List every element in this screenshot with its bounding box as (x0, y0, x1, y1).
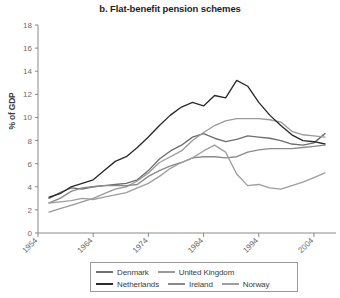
y-tick-label: 10 (23, 113, 32, 122)
y-tick-label: 18 (23, 21, 32, 30)
legend-label: Ireland (189, 280, 213, 289)
y-tick-label: 6 (28, 160, 33, 169)
x-tick-label: 1994 (241, 236, 260, 255)
series-line-united-kingdom (49, 119, 325, 213)
legend-row: NetherlandsIrelandNorway (96, 278, 292, 290)
plot-area: 024681012141618 195419641974198419942004 (0, 0, 340, 258)
legend-label: Norway (243, 280, 270, 289)
series-line-netherlands (49, 80, 325, 197)
x-tick-label: 1964 (76, 236, 95, 255)
y-tick-label: 12 (23, 90, 32, 99)
legend-swatch-icon (96, 283, 113, 285)
legend-item-denmark[interactable]: Denmark (96, 268, 149, 277)
legend-swatch-icon (168, 283, 185, 285)
legend-item-netherlands[interactable]: Netherlands (96, 280, 159, 289)
legend-item-united-kingdom[interactable]: United Kingdom (158, 268, 235, 277)
legend-swatch-icon (96, 271, 113, 273)
data-series-group (49, 80, 325, 212)
legend-swatch-icon (158, 271, 175, 273)
legend-label: Netherlands (117, 280, 159, 289)
x-tick-label: 1974 (131, 236, 150, 255)
legend-row: DenmarkUnited Kingdom (96, 266, 292, 278)
series-line-norway (49, 145, 325, 203)
y-axis-ticks: 024681012141618 (23, 21, 38, 238)
series-line-ireland (49, 145, 325, 203)
legend-swatch-icon (222, 283, 239, 285)
y-tick-label: 14 (23, 67, 32, 76)
legend-label: Denmark (117, 268, 149, 277)
x-tick-label: 2004 (296, 236, 315, 255)
x-axis-ticks: 195419641974198419942004 (20, 233, 315, 255)
x-tick-label: 1954 (20, 236, 39, 255)
y-tick-label: 16 (23, 44, 32, 53)
chart-legend: DenmarkUnited KingdomNetherlandsIrelandN… (90, 262, 298, 292)
legend-item-ireland[interactable]: Ireland (168, 280, 213, 289)
legend-item-norway[interactable]: Norway (222, 280, 270, 289)
legend-label: United Kingdom (179, 268, 235, 277)
y-tick-label: 4 (28, 183, 33, 192)
x-tick-label: 1984 (186, 236, 205, 255)
y-tick-label: 2 (28, 206, 33, 215)
chart-container: b. Flat-benefit pension schemes % of GDP… (0, 0, 340, 298)
y-tick-label: 8 (28, 137, 33, 146)
